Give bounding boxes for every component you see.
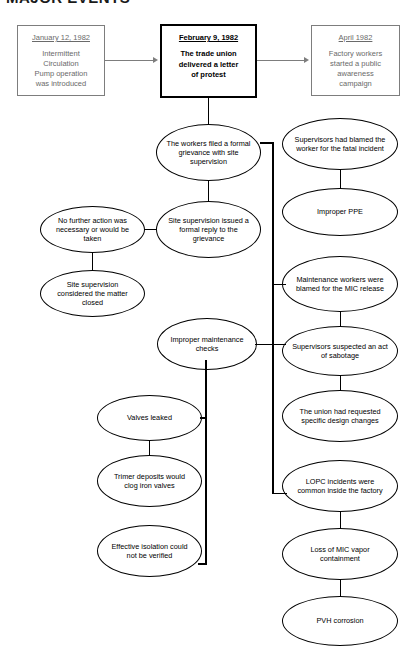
connector-trunk-to-valves: [200, 417, 207, 419]
node-no-further-action[interactable]: No further action was necessary or would…: [40, 206, 145, 253]
timeline-body-april: Factory workers started a public awarene…: [324, 49, 387, 89]
connector-workers-to-right-trunk: [260, 142, 274, 144]
connector-blamed-to-ppe: [340, 170, 342, 188]
connector-mic-to-pvh: [340, 580, 342, 596]
timeline-body-february: The trade union delivered a letter of pr…: [174, 49, 244, 81]
node-mic-vapor-label: Loss of MIC vapor containment: [283, 545, 397, 563]
node-trimer-deposits-label: Trimer deposits would clog iron valves: [98, 472, 201, 490]
connector-maintblamed-to-sabotage: [340, 312, 342, 326]
node-matter-closed-label: Site supervision considered the matter c…: [41, 280, 144, 308]
connector-trunk-to-sabotage: [272, 344, 286, 346]
node-valves-leaked[interactable]: Valves leaked: [97, 395, 202, 441]
connector-trunk-to-maintenance-blamed: [272, 284, 286, 286]
node-valves-leaked-label: Valves leaked: [118, 413, 181, 422]
node-supervisors-blamed[interactable]: Supervisors had blamed the worker for th…: [282, 118, 398, 170]
node-improper-ppe[interactable]: Improper PPE: [282, 188, 398, 236]
connector-maintenance-to-right-trunk: [255, 344, 273, 346]
connector-main-box-down: [208, 98, 210, 124]
connector-reply-to-no-action: [144, 229, 157, 231]
timeline-box-april[interactable]: April 1982 Factory workers started a pub…: [311, 25, 400, 96]
timeline-box-january[interactable]: January 12, 1982 Intermittent Circulatio…: [17, 25, 105, 96]
node-site-reply-label: Site supervision issued a formal reply t…: [157, 216, 260, 244]
timeline-date-april: April 1982: [339, 33, 373, 42]
timeline-body-january: Intermittent Circulation Pump operation …: [30, 49, 93, 89]
connector-no-action-to-closed: [92, 253, 94, 270]
arrow-line-jan-to-feb: [105, 60, 154, 61]
node-sabotage-label: Supervisors suspected an act of sabotage: [283, 342, 397, 360]
timeline-box-february[interactable]: February 9, 1982 The trade union deliver…: [160, 24, 257, 98]
node-improper-ppe-label: Improper PPE: [308, 207, 372, 216]
node-lopc[interactable]: LOPC incidents were common inside the fa…: [282, 460, 398, 512]
node-mic-vapor[interactable]: Loss of MIC vapor containment: [282, 528, 398, 580]
timeline-date-february: February 9, 1982: [179, 33, 238, 42]
connector-workers-to-reply: [208, 181, 210, 201]
connector-trunk-to-isolation: [198, 563, 207, 565]
right-trunk-line: [272, 142, 274, 494]
arrow-head-feb-to-apr: [304, 57, 309, 63]
node-lopc-label: LOPC incidents were common inside the fa…: [283, 477, 397, 495]
connector-valves-to-trimer: [149, 441, 151, 455]
node-supervisors-blamed-label: Supervisors had blamed the worker for th…: [283, 135, 397, 153]
node-site-reply[interactable]: Site supervision issued a formal reply t…: [156, 201, 261, 258]
connector-maintenance-trunk: [205, 363, 207, 564]
node-workers-filed[interactable]: The workers filed a formal grievance wit…: [156, 124, 261, 181]
node-trimer-deposits[interactable]: Trimer deposits would clog iron valves: [97, 455, 202, 507]
node-improper-maintenance[interactable]: Improper maintenance checks: [157, 318, 257, 370]
node-design-changes-label: The union had requested specific design …: [283, 407, 397, 425]
connector-trunk-to-lopc: [272, 493, 287, 495]
node-maintenance-blamed[interactable]: Maintenance workers were blamed for the …: [282, 256, 398, 312]
node-sabotage[interactable]: Supervisors suspected an act of sabotage: [282, 326, 398, 376]
timeline-date-january: January 12, 1982: [32, 33, 90, 42]
page-header-clipped: MAJOR EVENTS: [6, 0, 130, 6]
node-improper-maintenance-label: Improper maintenance checks: [158, 335, 256, 353]
node-pvh-label: PVH corrosion: [307, 616, 372, 625]
flowchart-canvas: MAJOR EVENTS January 12, 1982 Intermitte…: [0, 0, 413, 671]
node-effective-isolation[interactable]: Effective isolation could not be verifie…: [97, 525, 202, 577]
node-matter-closed[interactable]: Site supervision considered the matter c…: [40, 270, 145, 317]
node-maintenance-blamed-label: Maintenance workers were blamed for the …: [283, 275, 397, 293]
connector-sabotage-to-design: [340, 376, 342, 390]
arrow-head-jan-to-feb: [153, 57, 158, 63]
node-effective-isolation-label: Effective isolation could not be verifie…: [98, 542, 201, 560]
connector-lopc-to-mic: [340, 512, 342, 528]
arrow-line-feb-to-apr: [257, 60, 305, 61]
node-design-changes[interactable]: The union had requested specific design …: [282, 390, 398, 442]
node-pvh[interactable]: PVH corrosion: [282, 596, 398, 646]
node-no-further-action-label: No further action was necessary or would…: [41, 216, 144, 244]
node-workers-filed-label: The workers filed a formal grievance wit…: [157, 139, 260, 167]
